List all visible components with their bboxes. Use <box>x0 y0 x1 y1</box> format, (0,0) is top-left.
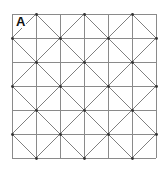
lattice-node <box>11 37 14 40</box>
lattice-node <box>131 61 134 64</box>
diagonal-line <box>132 14 156 38</box>
lattice-node <box>131 109 134 112</box>
lattice-node <box>107 133 110 136</box>
diagonal-line <box>12 86 84 158</box>
lattice-node <box>83 13 86 16</box>
lattice-node <box>35 157 38 160</box>
lattice-node <box>11 85 14 88</box>
diagonal-line <box>12 134 36 158</box>
diagonal-line <box>84 86 156 158</box>
diagonal-line <box>12 14 132 134</box>
figure-label: A <box>15 15 26 28</box>
lattice-node <box>107 37 110 40</box>
lattice-node <box>131 157 134 160</box>
lattice-node <box>155 37 158 40</box>
diagonal-line <box>36 38 156 158</box>
lattice-node <box>155 133 158 136</box>
diagonal-line <box>36 14 156 134</box>
lattice-node <box>11 133 14 136</box>
lattice-node <box>59 85 62 88</box>
lattice-node <box>59 133 62 136</box>
lattice-node <box>83 61 86 64</box>
lattice-node <box>35 61 38 64</box>
lattice-node <box>35 109 38 112</box>
lattice-node <box>59 37 62 40</box>
lattice-node <box>155 85 158 88</box>
diagonal-line <box>12 38 132 158</box>
lattice-node <box>35 13 38 16</box>
lattice-node <box>83 109 86 112</box>
lattice-node <box>131 13 134 16</box>
diagonal-line <box>132 134 156 158</box>
diagonal-line <box>84 14 156 86</box>
lattice-node <box>107 85 110 88</box>
lattice-node <box>83 157 86 160</box>
